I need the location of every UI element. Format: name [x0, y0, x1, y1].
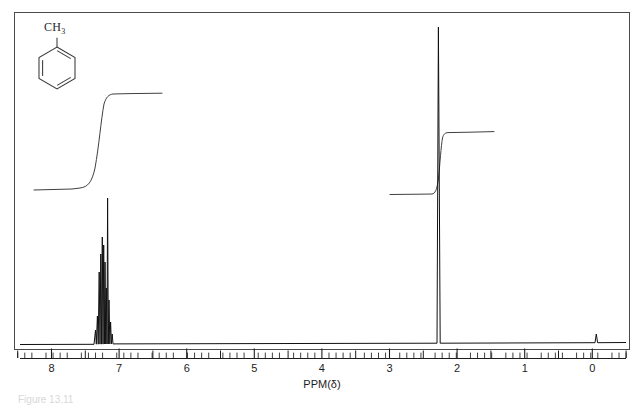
spectrum-baseline-and-peaks: [20, 27, 626, 345]
axis-label-1: 1: [522, 362, 528, 374]
figure-caption: Figure 13.11: [18, 394, 73, 405]
spectrum-trace-layer: [0, 0, 642, 406]
methyl-singlet-peak: [437, 27, 440, 343]
axis-label-7: 7: [116, 362, 122, 374]
aromatic-peak-10: [110, 322, 112, 344]
axis-label-8: 8: [48, 362, 54, 374]
aromatic-integration-curve: [34, 93, 162, 190]
axis-label-6: 6: [184, 362, 190, 374]
axis-label-2: 2: [454, 362, 460, 374]
axis-label-0: 0: [589, 362, 595, 374]
axis-title-ppm: PPM(δ): [303, 378, 340, 390]
axis-label-3: 3: [386, 362, 392, 374]
aromatic-peak-tall: [107, 198, 108, 344]
aromatic-multiplet-cluster: [94, 198, 113, 344]
baseline-right: [440, 343, 595, 344]
axis-label-4: 4: [319, 362, 325, 374]
axis-label-5: 5: [251, 362, 257, 374]
nmr-spectrum-figure: CH3: [0, 0, 642, 406]
tms-reference-peak: [595, 334, 598, 343]
aromatic-peak-11: [111, 334, 113, 344]
methyl-integration-curve: [390, 132, 494, 195]
axis-ruler: [18, 349, 626, 359]
baseline-middle: [113, 343, 437, 344]
integration-curves: [34, 93, 494, 194]
